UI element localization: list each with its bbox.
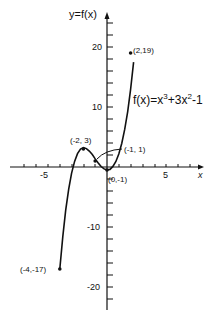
point-neg2-3	[82, 147, 86, 151]
y-tick-label-20: 20	[92, 42, 102, 52]
function-graph: y=f(x) x 20 10 -10 -20 -5 5 (2,19) (-2, …	[0, 0, 224, 321]
label-neg4-neg17: (-4,-17)	[20, 265, 47, 274]
y-tick-label-10: 10	[92, 102, 102, 112]
y-axis-arrow-icon	[105, 12, 110, 19]
x-axis-label: x	[197, 170, 203, 180]
label-0-neg1: (0,-1)	[108, 175, 127, 184]
point-0-neg1	[105, 168, 109, 172]
label-neg1-1: (-1, 1)	[124, 145, 146, 154]
y-tick-label-neg20: -20	[87, 282, 100, 292]
x-tick-label-neg5: -5	[40, 170, 48, 180]
function-curve	[60, 62, 134, 269]
point-2-19	[129, 51, 133, 55]
point-neg1-1	[93, 159, 97, 163]
y-tick-label-neg10: -10	[87, 222, 100, 232]
x-axis-arrow-icon	[198, 165, 204, 170]
label-2-19: (2,19)	[133, 46, 154, 55]
y-ticks	[107, 23, 113, 299]
label-neg2-3: (-2, 3)	[70, 136, 92, 145]
point-neg4-neg17	[58, 267, 62, 271]
function-label: f(x)=x3+3x2-1	[133, 92, 203, 107]
x-tick-label-5: 5	[163, 170, 168, 180]
y-axis-label: y=f(x)	[69, 8, 97, 20]
